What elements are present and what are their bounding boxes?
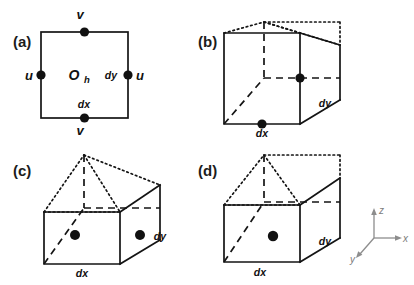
panel-d-edge-top-left-receding-dotted <box>224 155 264 205</box>
panel-a-label-u-right: u <box>136 68 144 83</box>
panel-b-edge-top-left-receding-dotted <box>224 22 264 33</box>
panel-b-label-dx: dx <box>256 127 269 139</box>
panel-d-label-dy: dy <box>319 235 332 247</box>
panel-a-dot-right <box>123 70 132 79</box>
panel-a-origin-symbol: O <box>69 67 80 83</box>
coordinate-axes: z x y <box>349 205 409 265</box>
panel-c-edge-back-top-dotted <box>84 155 160 185</box>
panel-c-front-face <box>44 212 120 264</box>
panel-c-label: (c) <box>13 162 31 179</box>
panel-a-label-dx: dx <box>78 98 91 110</box>
panel-a-origin-subscript: h <box>84 74 90 85</box>
panel-c-edge-bottom-right-receding <box>120 240 160 264</box>
panel-c-edge-top-left-receding-dotted <box>44 155 84 212</box>
panel-b-label-dy: dy <box>319 97 332 109</box>
panel-b: (b) dx dy <box>198 22 340 139</box>
y-axis-label: y <box>349 254 356 265</box>
panel-d: (d) dx dy <box>198 155 340 278</box>
panel-c-label-dx: dx <box>76 267 89 279</box>
panel-c-label-dy: dy <box>154 230 167 242</box>
z-axis-label: z <box>378 205 384 216</box>
panel-d-edge-top-right-receding <box>300 178 340 205</box>
x-axis-label: x <box>402 233 409 244</box>
x-axis-arrowhead <box>395 235 402 241</box>
panel-a-label-v-top: v <box>76 7 84 22</box>
panel-b-edge-hidden-receding <box>224 78 264 124</box>
figure-canvas: (a) v v u u O h dy dx (b) <box>0 0 414 285</box>
panel-a-dot-left <box>36 70 45 79</box>
panel-b-label: (b) <box>198 33 217 50</box>
panel-d-front-face <box>224 205 300 262</box>
panel-c-dot-right-edge <box>135 230 145 240</box>
panel-d-label-dx: dx <box>254 266 267 278</box>
panel-a-dot-bottom <box>80 113 89 122</box>
panel-a: (a) v v u u O h dy dx <box>13 7 144 138</box>
panel-c-dot-front-face <box>70 230 80 240</box>
panel-d-edge-diagonal-dotted <box>264 155 300 205</box>
z-axis-arrowhead <box>371 208 377 215</box>
panel-c: (c) dx dy <box>13 155 167 279</box>
panel-b-dot-right-face <box>295 73 304 82</box>
panel-c-edge-diagonal-dotted <box>84 155 120 212</box>
panel-d-label: (d) <box>198 162 217 179</box>
panel-a-label-v-bottom: v <box>76 123 84 138</box>
panel-a-label: (a) <box>13 33 31 50</box>
panel-a-label-u-left: u <box>25 68 33 83</box>
panel-a-label-dy: dy <box>105 69 118 81</box>
y-axis-line <box>360 238 374 254</box>
panel-d-dot-front-face <box>268 231 278 241</box>
panel-d-edge-hidden-receding <box>224 202 264 262</box>
panel-a-dot-top <box>80 27 89 36</box>
